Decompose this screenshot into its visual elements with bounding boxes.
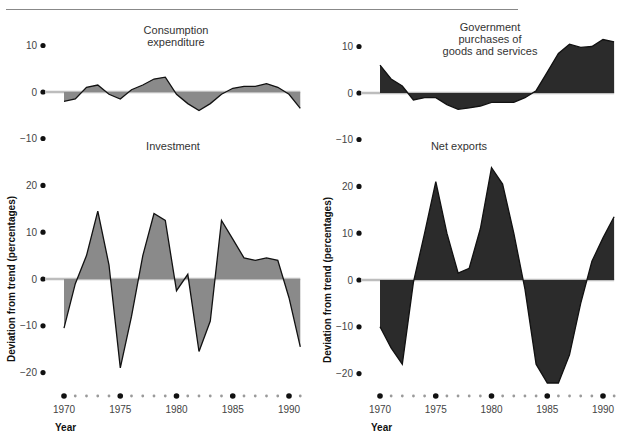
y-tick-label: −10 [20, 320, 37, 331]
x-major-tick-dot [286, 393, 292, 399]
y-tick-dot [40, 43, 45, 48]
y-tick-label: −10 [336, 134, 353, 145]
x-major-tick-dot [433, 393, 439, 399]
x-tick-label: 1975 [109, 404, 132, 415]
y-tick-dot [356, 184, 361, 189]
y-tick-dot [40, 276, 45, 281]
y-tick-dot [356, 137, 361, 142]
x-major-tick-dot [377, 393, 383, 399]
charts-canvas: Consumptionexpenditure100−10Governmentpu… [0, 0, 626, 441]
x-minor-tick-dot [468, 395, 471, 398]
x-minor-tick-dot [276, 395, 279, 398]
x-minor-tick-dot [265, 395, 268, 398]
x-minor-tick-dot [579, 395, 582, 398]
y-tick-label: 10 [26, 227, 38, 238]
x-tick-label: 1990 [592, 404, 615, 415]
y-tick-label: −20 [336, 368, 353, 379]
y-tick-dot [356, 324, 361, 329]
x-minor-tick-dot [243, 395, 246, 398]
y-tick-label: 10 [342, 41, 354, 52]
y-tick-dot [356, 231, 361, 236]
x-minor-tick-dot [130, 395, 133, 398]
x-minor-tick-dot [535, 395, 538, 398]
x-minor-tick-dot [299, 395, 302, 398]
x-minor-tick-dot [254, 395, 257, 398]
y-tick-dot [40, 183, 45, 188]
x-minor-tick-dot [590, 395, 593, 398]
consumption-title: Consumptionexpenditure [144, 24, 209, 48]
x-minor-tick-dot [446, 395, 449, 398]
x-tick-label: 1985 [536, 404, 559, 415]
x-tick-label: 1985 [222, 404, 245, 415]
x-major-tick-dot [117, 393, 123, 399]
y-tick-label: 0 [31, 274, 37, 285]
y-tick-label: 20 [342, 181, 354, 192]
investment-area [64, 211, 300, 368]
y-tick-label: −10 [336, 321, 353, 332]
x-minor-tick-dot [390, 395, 393, 398]
y-axis-title: Deviation from trend (percentages) [322, 197, 333, 363]
y-tick-label: 10 [342, 228, 354, 239]
y-tick-label: 0 [347, 275, 353, 286]
consumption-chart: Consumptionexpenditure100−10 [20, 24, 300, 144]
x-tick-label: 1980 [480, 404, 503, 415]
net-exports-title: Net exports [431, 140, 488, 152]
x-minor-tick-dot [186, 395, 189, 398]
x-minor-tick-dot [220, 395, 223, 398]
y-tick-dot [356, 277, 361, 282]
x-axis-title: Year [55, 422, 76, 433]
consumption-area [64, 77, 300, 111]
x-minor-tick-dot [479, 395, 482, 398]
x-minor-tick-dot [108, 395, 111, 398]
y-tick-dot [40, 370, 45, 375]
x-tick-label: 1975 [425, 404, 448, 415]
x-major-tick-dot [489, 393, 495, 399]
x-minor-tick-dot [96, 395, 99, 398]
y-axis-title: Deviation from trend (percentages) [6, 196, 17, 362]
government-title: Governmentpurchases ofgoods and services [443, 21, 538, 57]
x-axis-title: Year [371, 422, 392, 433]
investment-title: Investment [146, 140, 200, 152]
y-tick-dot [356, 44, 361, 49]
y-tick-label: −10 [20, 133, 37, 144]
x-minor-tick-dot [198, 395, 201, 398]
x-minor-tick-dot [412, 395, 415, 398]
x-tick-label: 1980 [165, 404, 188, 415]
y-tick-dot [40, 89, 45, 94]
x-minor-tick-dot [512, 395, 515, 398]
x-minor-tick-dot [141, 395, 144, 398]
y-tick-dot [356, 90, 361, 95]
x-minor-tick-dot [613, 395, 616, 398]
x-tick-label: 1970 [369, 404, 392, 415]
x-minor-tick-dot [85, 395, 88, 398]
x-minor-tick-dot [568, 395, 571, 398]
x-minor-tick-dot [524, 395, 527, 398]
x-minor-tick-dot [423, 395, 426, 398]
x-minor-tick-dot [74, 395, 77, 398]
x-minor-tick-dot [164, 395, 167, 398]
y-tick-label: 0 [347, 88, 353, 99]
x-major-tick-dot [61, 393, 67, 399]
y-tick-label: −20 [20, 367, 37, 378]
x-minor-tick-dot [153, 395, 156, 398]
x-major-tick-dot [174, 393, 180, 399]
x-minor-tick-dot [457, 395, 460, 398]
x-minor-tick-dot [209, 395, 212, 398]
net-exports-chart: Net exports20100−10−20197019751980198519… [322, 140, 616, 433]
y-tick-dot [356, 371, 361, 376]
x-major-tick-dot [230, 393, 236, 399]
y-tick-label: 10 [26, 40, 38, 51]
x-minor-tick-dot [501, 395, 504, 398]
y-tick-dot [40, 230, 45, 235]
investment-chart: Investment20100−10−201970197519801985199… [6, 140, 302, 433]
government-chart: Governmentpurchases ofgoods and services… [336, 21, 614, 145]
x-minor-tick-dot [401, 395, 404, 398]
y-tick-label: 20 [26, 180, 38, 191]
x-tick-label: 1990 [278, 404, 301, 415]
x-minor-tick-dot [557, 395, 560, 398]
x-major-tick-dot [544, 393, 550, 399]
y-tick-dot [40, 323, 45, 328]
x-tick-label: 1970 [53, 404, 76, 415]
x-major-tick-dot [600, 393, 606, 399]
y-tick-dot [40, 136, 45, 141]
